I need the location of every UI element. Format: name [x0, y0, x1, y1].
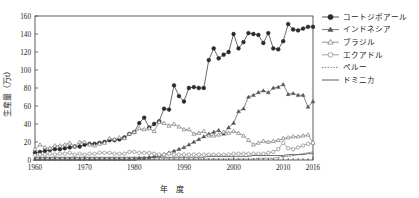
data-point-marker [128, 150, 131, 153]
data-point-marker [281, 39, 285, 43]
data-point-marker [48, 152, 51, 155]
data-point-marker [296, 29, 300, 33]
data-point-marker [282, 141, 285, 144]
y-tick-label: 120 [20, 49, 31, 57]
data-point-marker [222, 53, 226, 57]
legend-item-label: ドミニカ [343, 76, 375, 85]
data-point-marker [247, 31, 251, 35]
data-point-marker [83, 153, 86, 156]
data-point-marker [152, 152, 155, 155]
data-point-marker [286, 147, 289, 150]
data-point-marker [98, 151, 101, 154]
x-tick-label: 2000 [226, 164, 241, 172]
data-point-marker [271, 47, 275, 51]
data-point-marker [256, 33, 260, 37]
data-point-marker [306, 25, 310, 29]
data-point-marker [113, 152, 116, 155]
legend-marker-open-circle-icon [328, 52, 333, 57]
data-point-marker [93, 152, 96, 155]
data-point-marker [177, 153, 180, 156]
production-line-chart: 020406080100120140160 196019701980199020… [0, 0, 419, 198]
data-point-marker [53, 153, 56, 156]
data-point-marker [88, 152, 91, 155]
data-point-marker [222, 153, 225, 156]
data-point-marker [103, 151, 106, 154]
data-point-marker [152, 122, 156, 126]
y-tick-label: 40 [24, 121, 32, 129]
data-point-marker [108, 151, 111, 154]
y-tick-label: 60 [24, 103, 32, 111]
data-point-marker [187, 153, 190, 156]
data-point-marker [177, 94, 181, 98]
data-point-marker [252, 152, 255, 155]
y-tick-label: 100 [20, 67, 31, 75]
data-point-marker [267, 151, 270, 154]
data-point-marker [162, 153, 165, 156]
data-point-marker [232, 152, 235, 155]
legend-marker-filled-circle-icon [328, 14, 333, 19]
data-point-marker [301, 27, 305, 31]
data-point-marker [133, 150, 136, 153]
data-point-marker [217, 56, 221, 60]
y-axis-title: 生産量（万t） [2, 67, 12, 117]
data-point-marker [123, 152, 126, 155]
data-point-marker [227, 153, 230, 156]
data-point-marker [217, 153, 220, 156]
x-tick-label: 1960 [28, 164, 43, 172]
data-point-marker [306, 142, 309, 145]
data-point-marker [147, 151, 150, 154]
data-point-marker [192, 153, 195, 156]
x-tick-label: 1990 [177, 164, 192, 172]
data-point-marker [291, 28, 295, 32]
data-point-marker [192, 85, 196, 89]
data-point-marker [118, 152, 121, 155]
data-point-marker [182, 100, 186, 104]
data-point-marker [227, 50, 231, 54]
data-point-marker [58, 152, 61, 155]
data-point-marker [172, 153, 175, 156]
data-point-marker [291, 148, 294, 151]
data-point-marker [266, 31, 270, 35]
data-point-marker [296, 146, 299, 149]
data-point-marker [212, 153, 215, 156]
y-tick-label: 80 [24, 85, 32, 93]
data-point-marker [311, 141, 314, 144]
data-point-marker [261, 41, 265, 45]
data-point-marker [202, 86, 206, 90]
data-point-marker [182, 153, 185, 156]
data-point-marker [207, 153, 210, 156]
data-point-marker [237, 152, 240, 155]
chart-figure: 020406080100120140160 196019701980199020… [0, 0, 419, 198]
data-point-marker [242, 152, 245, 155]
data-point-marker [276, 47, 280, 51]
y-tick-label: 20 [24, 139, 32, 147]
data-point-marker [142, 116, 146, 120]
data-point-marker [242, 40, 246, 44]
legend-item-label: ブラジル [343, 37, 375, 47]
data-point-marker [167, 152, 170, 155]
data-point-marker [197, 86, 201, 90]
data-point-marker [277, 148, 280, 151]
data-point-marker [197, 153, 200, 156]
data-point-marker [207, 58, 211, 62]
data-point-marker [167, 108, 171, 112]
data-point-marker [247, 152, 250, 155]
legend-item-label: コートジボアール [343, 13, 407, 22]
data-point-marker [237, 47, 241, 51]
data-point-marker [172, 83, 176, 87]
data-point-marker [53, 147, 57, 151]
data-point-marker [33, 154, 36, 157]
data-point-marker [38, 153, 41, 156]
data-point-marker [78, 152, 81, 155]
data-point-marker [58, 147, 62, 151]
data-point-marker [43, 153, 46, 156]
data-point-marker [301, 144, 304, 147]
x-tick-label: 2010 [276, 164, 291, 172]
data-point-marker [68, 146, 72, 150]
data-point-marker [78, 145, 82, 149]
data-point-marker [252, 32, 256, 36]
data-point-marker [43, 149, 47, 153]
legend-item-label: インドネシア [343, 25, 391, 34]
legend-item-label: ペルー [343, 63, 367, 72]
data-point-marker [63, 146, 67, 150]
